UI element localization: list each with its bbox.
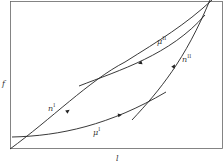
label-n1: nI <box>48 103 55 113</box>
diagram-canvas <box>0 0 224 167</box>
label-y-axis: f <box>2 80 5 88</box>
plot-frame <box>11 2 223 149</box>
label-n2: nII <box>182 54 191 64</box>
arrow-n1 <box>65 108 71 114</box>
curve-mu1 <box>12 92 166 137</box>
label-mu1: μI <box>93 127 100 137</box>
arrow-mu1 <box>118 113 123 118</box>
label-mu2: μII <box>157 36 166 46</box>
curve-n1 <box>10 0 212 149</box>
curve-mu2 <box>79 15 205 86</box>
label-x-axis: l <box>116 155 119 163</box>
